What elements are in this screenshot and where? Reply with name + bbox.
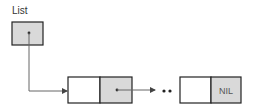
ellipsis-dot-2 [168,89,171,92]
node-last-data-cell [180,77,211,103]
list-label: List [12,5,28,16]
head-pointer-box [12,22,43,45]
node-last: NIL [180,77,241,103]
ellipsis-dot-1 [162,89,165,92]
node-1-data-cell [68,77,100,103]
nil-label: NIL [219,86,233,96]
linked-list-diagram: List NIL [0,0,253,109]
